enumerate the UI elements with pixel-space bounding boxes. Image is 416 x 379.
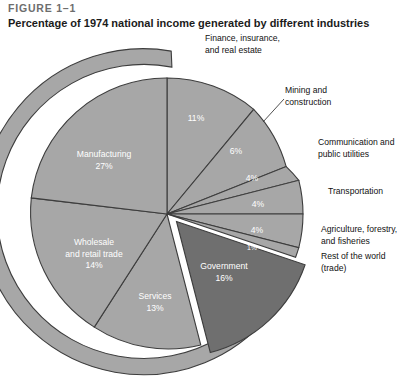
pct-label-rest-of-world: 1%: [247, 243, 257, 253]
slice-label-services-name: Services: [139, 291, 172, 303]
callout-leader-lines: [263, 99, 284, 122]
slice-manufacturing[interactable]: [31, 78, 167, 214]
callout-communication-line2: public utilities: [318, 149, 394, 161]
callout-mining-line2: construction: [285, 97, 331, 109]
pct-label-mining: 6%: [230, 146, 242, 156]
slice-label-wholesale-name2: and retail trade: [65, 248, 122, 260]
slice-label-services: Services 13%: [139, 291, 172, 314]
slice-label-wholesale-name: Wholesale: [65, 237, 122, 249]
callout-rest-of-world: Rest of the world (trade): [321, 251, 385, 274]
pct-label-agriculture: 4%: [251, 225, 263, 235]
callout-rest-of-world-line2: (trade): [321, 263, 385, 275]
callout-mining: Mining and construction: [285, 85, 331, 108]
callout-rest-of-world-line1: Rest of the world: [321, 251, 385, 263]
slice-label-government-name: Government: [200, 261, 247, 273]
callout-communication-line1: Communication and: [318, 137, 394, 149]
slice-label-government-pct: 16%: [200, 272, 247, 284]
callout-mining-line1: Mining and: [285, 85, 331, 97]
leader-line-mining: [263, 99, 284, 122]
callout-finance: Finance, insurance, and real estate: [205, 33, 280, 56]
callout-transportation-line1: Transportation: [328, 186, 383, 198]
callout-communication: Communication and public utilities: [318, 137, 394, 160]
slice-label-services-pct: 13%: [139, 302, 172, 314]
slice-label-wholesale: Wholesale and retail trade 14%: [65, 237, 122, 272]
pct-label-finance: 11%: [188, 113, 205, 123]
slice-label-manufacturing-name: Manufacturing: [77, 149, 131, 161]
figure-container: FIGURE 1–1 Percentage of 1974 national i…: [0, 0, 416, 379]
callout-agriculture: Agriculture, forestry, and fisheries: [321, 224, 397, 247]
callout-finance-line1: Finance, insurance,: [205, 33, 280, 45]
callout-agriculture-line2: and fisheries: [321, 236, 397, 248]
callout-transportation: Transportation: [328, 186, 383, 198]
slice-label-manufacturing-pct: 27%: [77, 160, 131, 172]
slice-label-government: Government 16%: [200, 261, 247, 284]
slice-label-wholesale-pct: 14%: [65, 260, 122, 272]
callout-agriculture-line1: Agriculture, forestry,: [321, 224, 397, 236]
callout-finance-line2: and real estate: [205, 45, 280, 57]
pct-label-communication: 4%: [246, 173, 258, 183]
slice-label-manufacturing: Manufacturing 27%: [77, 149, 131, 172]
pct-label-transportation: 4%: [252, 199, 264, 209]
